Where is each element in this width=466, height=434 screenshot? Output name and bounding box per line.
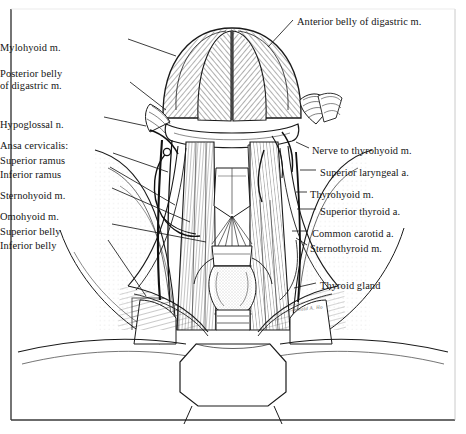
label-posterior-digastric-line-1: of digastric m. bbox=[0, 80, 46, 92]
label-nerve-to-thyrohyoid-line-0: Nerve to thyrohyoid m. bbox=[312, 145, 412, 157]
label-posterior-digastric: Posterior bellyof digastric m. bbox=[0, 68, 46, 92]
label-inferior-belly-line-0: Inferior belly bbox=[0, 240, 31, 252]
thyroid-gland bbox=[209, 266, 256, 316]
label-mylohyoid: Mylohyoid m. bbox=[0, 42, 52, 54]
label-common-carotid: Common carotid a. bbox=[312, 228, 394, 240]
label-anterior-digastric-line-0: Anterior belly of digastric m. bbox=[297, 16, 421, 28]
label-superior-thyroid: Superior thyroid a. bbox=[320, 206, 400, 218]
label-sternothyroid-line-0: Sternothyroid m. bbox=[310, 243, 382, 255]
label-superior-laryngeal-line-0: Superior laryngeal a. bbox=[320, 167, 409, 179]
mylohyoid-muscle bbox=[160, 25, 306, 125]
label-sternohyoid: Sternohyoid m. bbox=[0, 190, 20, 202]
label-sternothyroid: Sternothyroid m. bbox=[310, 243, 382, 255]
label-ansa-cervicalis-line-0: Ansa cervicalis: bbox=[0, 140, 14, 152]
label-ansa-cervicalis: Ansa cervicalis: bbox=[0, 140, 14, 152]
label-thyrohyoid-line-0: Thyrohyoid m. bbox=[310, 189, 374, 201]
dissection-illustration bbox=[18, 25, 448, 424]
label-superior-ramus: Superior ramus bbox=[0, 155, 34, 167]
manubrium-sterni bbox=[180, 344, 286, 424]
label-hypoglossal-line-0: Hypoglossal n. bbox=[0, 119, 14, 131]
label-anterior-digastric: Anterior belly of digastric m. bbox=[297, 16, 421, 28]
label-superior-belly: Superior belly bbox=[0, 226, 31, 238]
trachea bbox=[216, 310, 250, 330]
label-common-carotid-line-0: Common carotid a. bbox=[312, 228, 394, 240]
label-superior-ramus-line-0: Superior ramus bbox=[0, 155, 34, 167]
label-mylohyoid-line-0: Mylohyoid m. bbox=[0, 42, 52, 54]
larynx-thyroid-trachea bbox=[209, 168, 256, 330]
label-thyroid-gland-line-0: Thyroid gland bbox=[320, 280, 380, 292]
label-nerve-to-thyrohyoid: Nerve to thyrohyoid m. bbox=[312, 145, 412, 157]
label-posterior-digastric-line-0: Posterior belly bbox=[0, 68, 46, 80]
label-superior-belly-line-0: Superior belly bbox=[0, 226, 31, 238]
label-hypoglossal: Hypoglossal n. bbox=[0, 119, 14, 131]
label-omohyoid-line-0: Omohyoid m. bbox=[0, 211, 14, 223]
label-superior-laryngeal: Superior laryngeal a. bbox=[320, 167, 409, 179]
label-omohyoid: Omohyoid m. bbox=[0, 211, 14, 223]
label-inferior-ramus: Inferior ramus bbox=[0, 169, 34, 181]
label-inferior-belly: Inferior belly bbox=[0, 240, 31, 252]
cricothyroid-fan bbox=[212, 216, 252, 249]
label-sternohyoid-line-0: Sternohyoid m. bbox=[0, 190, 20, 202]
label-superior-thyroid-line-0: Superior thyroid a. bbox=[320, 206, 400, 218]
posterior-belly-digastric-right bbox=[300, 93, 342, 124]
label-thyroid-gland: Thyroid gland bbox=[320, 280, 380, 292]
hyoid-bone bbox=[165, 124, 299, 148]
label-thyrohyoid: Thyrohyoid m. bbox=[310, 189, 374, 201]
label-inferior-ramus-line-0: Inferior ramus bbox=[0, 169, 34, 181]
